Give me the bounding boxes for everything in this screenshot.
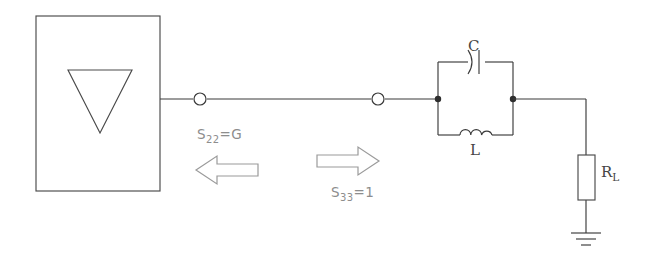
load-resistor-label: RL — [601, 165, 619, 183]
inverting-triangle-icon — [68, 70, 132, 133]
arrow-left-s22 — [196, 156, 258, 184]
ground-icon — [571, 233, 601, 245]
junction-dot-left — [435, 96, 441, 102]
annotation-s33-value: =1 — [353, 184, 374, 200]
annotation-s22-subscript: 22 — [206, 134, 219, 145]
circuit-diagram: S22=G S33=1 C L RL — [0, 0, 650, 260]
load-resistor-symbol: R — [601, 163, 612, 181]
connector-node-2[interactable] — [372, 93, 384, 105]
lc-tank[interactable] — [438, 62, 513, 135]
amplifier-block[interactable] — [36, 16, 160, 191]
capacitor-label: C — [468, 39, 479, 54]
connector-node-1[interactable] — [194, 93, 206, 105]
inductor-icon — [460, 130, 492, 135]
load-resistor-subscript: L — [612, 171, 619, 183]
load-resistor-icon[interactable] — [578, 155, 595, 200]
inductor-label: L — [470, 143, 480, 158]
annotation-s33-subscript: 33 — [340, 192, 353, 203]
annotation-s33: S33=1 — [331, 186, 374, 203]
annotation-s22-symbol: S — [197, 126, 206, 142]
annotation-s22: S22=G — [197, 128, 242, 145]
annotation-s33-symbol: S — [331, 184, 340, 200]
annotation-s22-value: =G — [219, 126, 242, 142]
load-branch — [513, 99, 586, 233]
arrow-right-s33 — [317, 147, 379, 175]
